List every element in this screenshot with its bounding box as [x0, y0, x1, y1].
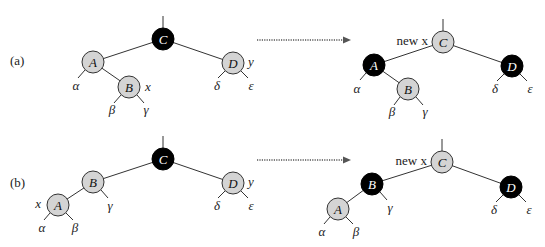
- subtree-delta: δ: [214, 78, 221, 93]
- edge-A-alpha: [78, 70, 85, 78]
- subtree-epsilon: ε: [526, 202, 532, 217]
- case-a-before-tree: C A B x D y α β γ δ ε: [73, 16, 255, 117]
- svg-text:B: B: [89, 175, 97, 190]
- svg-text:B: B: [368, 177, 376, 192]
- node-A: A: [327, 198, 349, 220]
- svg-text:D: D: [227, 176, 238, 191]
- transform-arrow-b: [257, 157, 351, 164]
- svg-text:A: A: [369, 58, 378, 73]
- subtree-beta: β: [108, 102, 116, 117]
- node-D: D: [501, 55, 523, 77]
- case-b-before-tree: C B A x D y α β γ δ ε: [34, 136, 254, 235]
- svg-text:B: B: [125, 80, 133, 95]
- subtree-beta: β: [388, 104, 396, 119]
- node-C: C: [432, 31, 454, 53]
- edge-D-delta: [497, 74, 504, 81]
- subtree-alpha: α: [319, 224, 327, 239]
- annotation-x: x: [34, 196, 41, 211]
- case-a-after-tree: C new x A B D α β γ δ ε: [354, 19, 534, 119]
- node-C: C: [152, 148, 174, 170]
- svg-text:A: A: [333, 202, 342, 217]
- annotation-new-x: new x: [397, 33, 429, 48]
- svg-text:D: D: [505, 180, 516, 195]
- svg-text:A: A: [53, 198, 62, 213]
- subtree-delta: δ: [492, 81, 499, 96]
- edge-D-delta: [496, 195, 503, 202]
- svg-text:D: D: [227, 56, 238, 71]
- subtree-alpha: α: [354, 81, 362, 96]
- case-label-b: (b): [10, 175, 25, 190]
- svg-text:C: C: [159, 32, 168, 47]
- node-B: B: [397, 78, 419, 100]
- subtree-epsilon: ε: [248, 198, 254, 213]
- subtree-delta: δ: [214, 198, 221, 213]
- annotation-y: y: [246, 54, 254, 69]
- node-D: D: [222, 52, 244, 74]
- annotation-y: y: [246, 174, 254, 189]
- subtree-epsilon: ε: [248, 78, 254, 93]
- edge-D-delta: [218, 71, 225, 78]
- annotation-x: x: [144, 79, 151, 94]
- edge-B-gamma: [101, 190, 108, 198]
- edge-A-alpha: [324, 217, 330, 224]
- node-A: A: [82, 51, 104, 73]
- svg-text:C: C: [439, 35, 448, 50]
- node-B: B: [118, 76, 140, 98]
- node-B: B: [361, 173, 383, 195]
- svg-text:A: A: [88, 55, 97, 70]
- svg-text:D: D: [506, 59, 517, 74]
- node-D: D: [222, 172, 244, 194]
- subtree-gamma: γ: [143, 102, 149, 117]
- subtree-alpha: α: [39, 220, 47, 235]
- case-b-after-tree: C new x B A D α β γ δ ε: [319, 139, 533, 239]
- subtree-epsilon: ε: [527, 81, 533, 96]
- node-A: A: [47, 194, 69, 216]
- node-C: C: [431, 151, 453, 173]
- svg-text:B: B: [404, 82, 412, 97]
- node-C: C: [152, 28, 174, 50]
- edge-D-epsilon: [519, 195, 526, 202]
- subtree-delta: δ: [491, 202, 498, 217]
- edge-A-beta: [66, 213, 73, 220]
- subtree-gamma: γ: [387, 200, 393, 215]
- node-D: D: [500, 176, 522, 198]
- red-black-tree-case1-diagram: (a) C A B x D y α β γ δ ε: [0, 0, 545, 247]
- case-label-a: (a): [10, 53, 24, 68]
- subtree-gamma: γ: [422, 104, 428, 119]
- edge-D-delta: [218, 191, 225, 198]
- node-B: B: [82, 171, 104, 193]
- svg-text:C: C: [438, 155, 447, 170]
- subtree-alpha: α: [73, 78, 81, 93]
- edge-B-gamma: [380, 192, 387, 200]
- subtree-gamma: γ: [107, 198, 113, 213]
- edge-A-alpha: [360, 73, 366, 80]
- annotation-new-x: new x: [396, 153, 428, 168]
- svg-text:C: C: [159, 152, 168, 167]
- edge-D-epsilon: [520, 74, 527, 81]
- node-A: A: [363, 54, 385, 76]
- edge-D-epsilon: [241, 71, 248, 78]
- edge-A-beta: [346, 217, 353, 224]
- edge-D-epsilon: [241, 191, 248, 198]
- subtree-beta: β: [71, 220, 79, 235]
- edge-A-alpha: [44, 213, 50, 220]
- transform-arrow-a: [257, 37, 351, 44]
- subtree-beta: β: [352, 224, 360, 239]
